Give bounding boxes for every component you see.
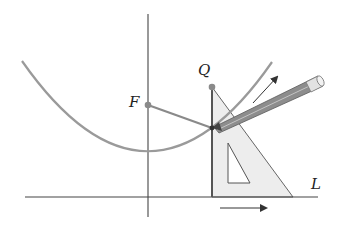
focus-point-F (145, 102, 152, 109)
parabola-diagram (0, 0, 343, 229)
pencil[interactable] (212, 75, 326, 133)
segment-F-to-contact (148, 105, 212, 128)
contact-point (210, 126, 215, 131)
label-F: F (129, 95, 139, 110)
label-Q: Q (198, 63, 210, 78)
point-Q (209, 84, 216, 91)
label-L: L (311, 177, 321, 192)
